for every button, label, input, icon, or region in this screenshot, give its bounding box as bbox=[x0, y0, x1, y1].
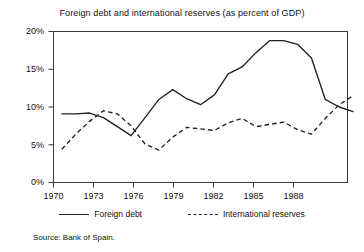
legend-entry-foreign-debt: Foreign debt bbox=[59, 209, 142, 219]
x-tick-label-1982: 1982 bbox=[194, 191, 234, 201]
x-tick-label-1985: 1985 bbox=[234, 191, 274, 201]
x-tick-label-1973: 1973 bbox=[74, 191, 114, 201]
chart-figure: Foreign debt and international reserves … bbox=[0, 0, 364, 252]
y-tick-label-15: 15% bbox=[8, 64, 44, 74]
x-tick-label-1970: 1970 bbox=[34, 191, 74, 201]
x-tick-label-1979: 1979 bbox=[154, 191, 194, 201]
legend-entry-international-reserves: International reserves bbox=[188, 209, 305, 219]
chart-legend: Foreign debt International reserves bbox=[0, 209, 364, 219]
legend-line-dashed-icon bbox=[188, 210, 218, 218]
legend-label-foreign-debt: Foreign debt bbox=[94, 209, 142, 219]
y-tick-label-10: 10% bbox=[8, 102, 44, 112]
x-axis-ticks bbox=[54, 183, 294, 188]
source-note: Source: Bank of Spain. bbox=[33, 233, 115, 242]
y-axis-ticks bbox=[49, 32, 54, 183]
legend-label-international-reserves: International reserves bbox=[223, 209, 305, 219]
plot-frame bbox=[54, 32, 348, 183]
y-tick-label-0: 0% bbox=[8, 177, 44, 187]
y-tick-label-20: 20% bbox=[8, 26, 44, 36]
x-tick-label-1976: 1976 bbox=[114, 191, 154, 201]
legend-line-solid-icon bbox=[59, 210, 89, 218]
x-tick-label-1988: 1988 bbox=[274, 191, 314, 201]
y-tick-label-5: 5% bbox=[8, 140, 44, 150]
